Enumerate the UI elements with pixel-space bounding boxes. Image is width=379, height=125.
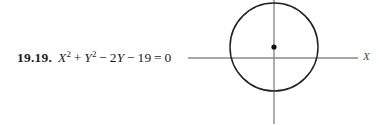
- figure-page: 19.19.X2+Y2−2Y−19=0 X: [0, 0, 379, 125]
- x-axis-label: X: [363, 50, 370, 62]
- graph-canvas: [0, 0, 379, 125]
- circle-center-dot: [271, 44, 276, 49]
- graph-figure: X: [0, 0, 379, 125]
